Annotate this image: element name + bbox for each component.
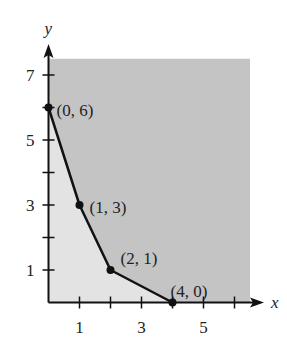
point-label: (2, 1) bbox=[121, 249, 158, 268]
point-label: (0, 6) bbox=[57, 101, 94, 120]
x-axis-label: x bbox=[270, 293, 279, 312]
y-tick-label: 1 bbox=[26, 261, 35, 280]
x-tick-label: 1 bbox=[75, 318, 84, 337]
x-tick-label: 5 bbox=[199, 318, 208, 337]
y-tick-label: 3 bbox=[26, 196, 35, 215]
point-label: (4, 0) bbox=[171, 282, 208, 301]
x-tick-label: 3 bbox=[137, 318, 146, 337]
y-axis-label: y bbox=[43, 19, 53, 38]
y-tick-label: 5 bbox=[26, 131, 35, 150]
vertex-point bbox=[45, 104, 53, 112]
point-label: (1, 3) bbox=[90, 198, 127, 217]
chart: 1351357xy(0, 6)(1, 3)(2, 1)(4, 0) bbox=[0, 0, 287, 358]
vertex-point bbox=[76, 201, 84, 209]
y-tick-label: 7 bbox=[26, 66, 35, 85]
vertex-point bbox=[107, 266, 115, 274]
